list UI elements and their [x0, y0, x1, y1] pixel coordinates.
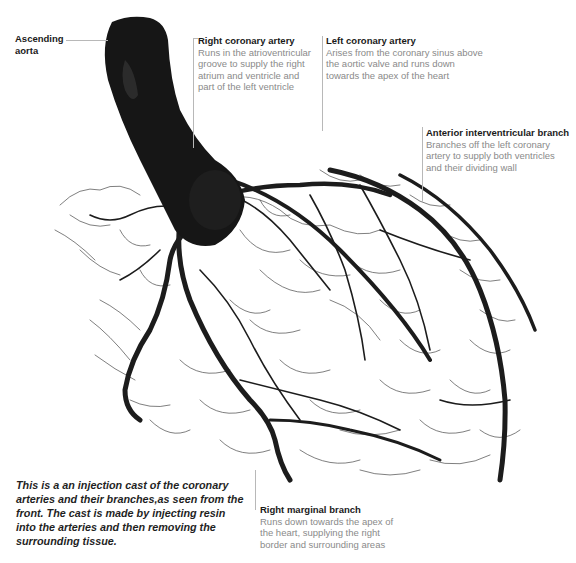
- label-right-marginal-branch-title: Right marginal branch: [260, 504, 410, 516]
- secondary-branches: [90, 185, 510, 430]
- label-right-marginal-branch: Right marginal branch Runs down towards …: [260, 504, 410, 550]
- label-ascending-aorta: Ascending aorta: [15, 33, 64, 56]
- label-anterior-interventricular-branch: Anterior interventricular branch Branche…: [426, 127, 576, 173]
- anterior-interventricular-branch-path: [330, 170, 505, 480]
- label-left-coronary-artery: Left coronary artery Arises from the cor…: [326, 35, 486, 81]
- label-left-coronary-artery-title: Left coronary artery: [326, 35, 486, 47]
- leader-line-right-marginal: [255, 470, 256, 510]
- circumflex-branch-path: [400, 175, 535, 330]
- label-right-coronary-artery-body: Runs in the atrioventricular groove to s…: [198, 47, 311, 93]
- label-ascending-aorta-line2: aorta: [15, 45, 64, 57]
- fine-capillary-network: [55, 170, 520, 475]
- label-right-coronary-artery-title: Right coronary artery: [198, 35, 318, 47]
- label-left-coronary-artery-body: Arises from the coronary sinus above the…: [326, 47, 483, 81]
- right-marginal-branch-path: [179, 220, 290, 480]
- leader-line-ascending-aorta: [66, 40, 108, 41]
- label-right-marginal-branch-body: Runs down towards the apex of the heart,…: [260, 516, 400, 551]
- label-right-coronary-artery: Right coronary artery Runs in the atriov…: [198, 35, 318, 93]
- leader-line-anterior-interventricular: [422, 127, 423, 202]
- figure-caption: This is a an injection cast of the coron…: [16, 478, 246, 548]
- label-ascending-aorta-line1: Ascending: [15, 33, 64, 45]
- label-anterior-interventricular-branch-title: Anterior interventricular branch: [426, 127, 576, 139]
- leader-line-right-coronary: [193, 38, 194, 148]
- label-anterior-interventricular-branch-body: Branches off the left coronary artery to…: [426, 139, 556, 174]
- leader-line-left-coronary: [322, 36, 323, 131]
